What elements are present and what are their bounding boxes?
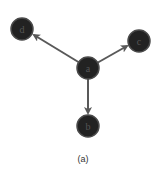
node-d: d bbox=[11, 18, 33, 40]
node-c-label: c bbox=[137, 36, 142, 47]
edge-a-d bbox=[34, 35, 80, 63]
figure-caption: (a) bbox=[0, 154, 166, 164]
node-a-label: a bbox=[86, 63, 91, 74]
node-b: b bbox=[77, 115, 99, 137]
node-a: a bbox=[77, 57, 99, 79]
node-d-label: d bbox=[20, 24, 25, 35]
node-b-label: b bbox=[86, 121, 91, 132]
node-c: c bbox=[128, 30, 150, 52]
edge-a-c bbox=[97, 46, 127, 63]
